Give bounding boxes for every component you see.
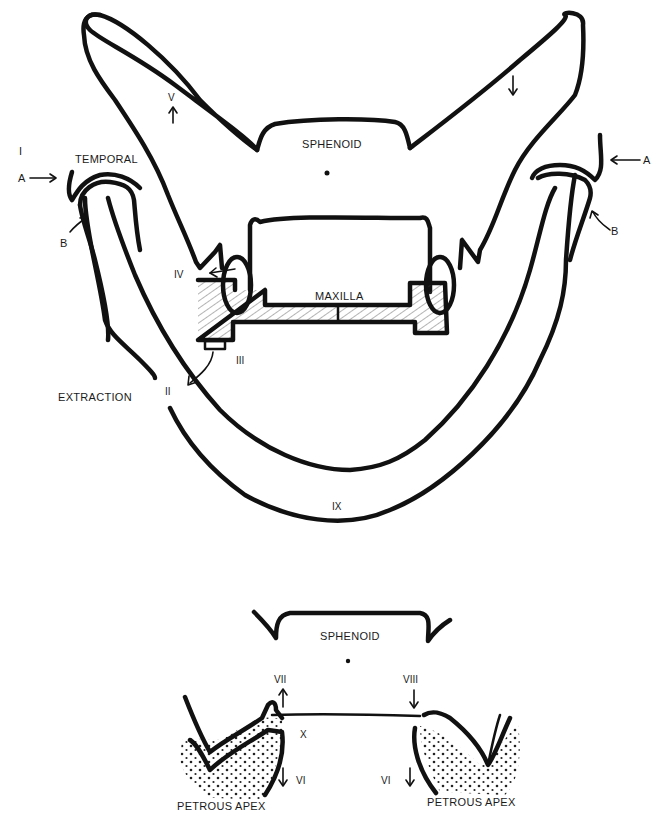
label-B-left: B (60, 237, 68, 249)
label-petrous-apex-left: PETROUS APEX (177, 800, 266, 812)
label-extraction: EXTRACTION (58, 391, 132, 403)
top-diagram (30, 13, 640, 521)
arrow-VI-left (279, 768, 287, 786)
label-maxilla: MAXILLA (315, 290, 364, 302)
arrow-right-wing-down (509, 76, 517, 95)
label-A-right: A (643, 154, 651, 166)
mandible-outer-left (85, 198, 155, 378)
label-roman-VIII: VIII (403, 674, 418, 685)
label-sphenoid-bottom: SPHENOID (320, 630, 380, 642)
arrow-V-up (169, 107, 177, 123)
extraction-tooth (205, 341, 225, 349)
arrow-VI-right (406, 768, 414, 786)
sphenoid-outline (84, 14, 222, 268)
clivus-line (272, 714, 420, 716)
label-roman-VII: VII (274, 674, 286, 685)
label-VI-left: VI (296, 775, 305, 786)
label-roman-IV: IV (174, 269, 184, 280)
arrow-A-right (611, 156, 640, 164)
label-temporal: TEMPORAL (75, 153, 138, 165)
label-roman-I: I (19, 145, 22, 157)
sphenoid-bone (86, 14, 257, 150)
arrow-VIII-down (410, 690, 418, 708)
label-roman-II: II (165, 386, 171, 397)
arrow-A-left (30, 174, 56, 182)
lower-sphenoid-dot (346, 659, 350, 663)
arrow-extraction (188, 352, 213, 385)
arrow-VII-up (279, 689, 287, 707)
sphenoid-center-dot (325, 171, 330, 176)
arrow-B-right (590, 211, 610, 230)
label-roman-III: III (236, 355, 244, 366)
label-petrous-apex-right: PETROUS APEX (427, 796, 516, 808)
label-roman-V: V (168, 92, 175, 103)
label-A-left: A (18, 172, 26, 184)
maxilla-upper-outline (250, 217, 430, 292)
sphenoid-right-wing (410, 13, 583, 268)
label-sphenoid-top: SPHENOID (302, 138, 362, 150)
label-VI-right: VI (381, 775, 390, 786)
anatomy-diagram: SPHENOID TEMPORAL I A B A B V IV MAXILLA… (0, 0, 669, 834)
label-roman-IX: IX (332, 501, 342, 512)
label-roman-X: X (300, 729, 307, 740)
label-B-right: B (611, 225, 619, 237)
